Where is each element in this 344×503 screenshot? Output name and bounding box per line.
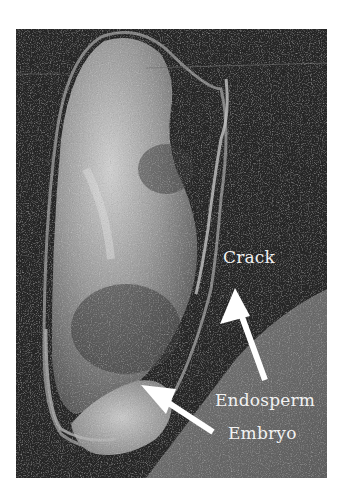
crack-label: Crack bbox=[223, 249, 275, 266]
embryo-label: Embryo bbox=[228, 425, 297, 442]
micrograph-image bbox=[16, 29, 327, 478]
endosperm-label: Endosperm bbox=[215, 392, 315, 409]
seed-micrograph bbox=[16, 29, 327, 478]
